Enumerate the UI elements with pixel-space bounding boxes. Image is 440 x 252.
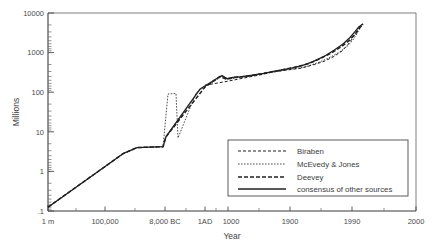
x-tick-label: 1 m — [42, 217, 55, 226]
y-tick-labels: 10000 1000 100 10 1 .1 — [23, 9, 44, 216]
y-axis-title: Millions — [11, 98, 21, 126]
series-line-biraben — [205, 24, 362, 85]
x-axis-ticks — [48, 205, 416, 211]
y-tick-label: 10000 — [23, 9, 44, 18]
y-axis-major-ticks — [48, 13, 54, 211]
y-tick-label: .1 — [38, 207, 44, 216]
x-tick-label: 1990 — [344, 217, 361, 226]
x-axis-title: Year — [223, 231, 240, 241]
chart-svg: 10000 1000 100 10 1 .1 1 m 100,000 8,000… — [0, 0, 440, 252]
x-tick-labels: 1 m 100,000 8,000 BC 1AD 1000 1900 1990 … — [42, 217, 425, 226]
legend-label-deevey: Deevey — [297, 173, 324, 182]
y-tick-label: 100 — [31, 88, 44, 97]
legend-label-consensus: consensus of other sources — [297, 185, 392, 194]
x-tick-label: 1000 — [223, 217, 240, 226]
legend-label-mcevedy-jones: McEvedy & Jones — [297, 160, 360, 169]
x-tick-label: 100,000 — [91, 217, 118, 226]
x-tick-label: 1AD — [198, 217, 213, 226]
x-tick-label: 1900 — [282, 217, 299, 226]
x-tick-label: 8,000 BC — [149, 217, 181, 226]
population-history-chart: 10000 1000 100 10 1 .1 1 m 100,000 8,000… — [0, 0, 440, 252]
y-tick-label: 1000 — [27, 48, 44, 57]
y-tick-label: 10 — [36, 128, 44, 137]
y-tick-label: 1 — [40, 167, 44, 176]
legend: Biraben McEvedy & Jones Deevey consensus… — [228, 140, 408, 196]
legend-label-biraben: Biraben — [297, 147, 324, 156]
x-tick-label: 2000 — [408, 217, 425, 226]
